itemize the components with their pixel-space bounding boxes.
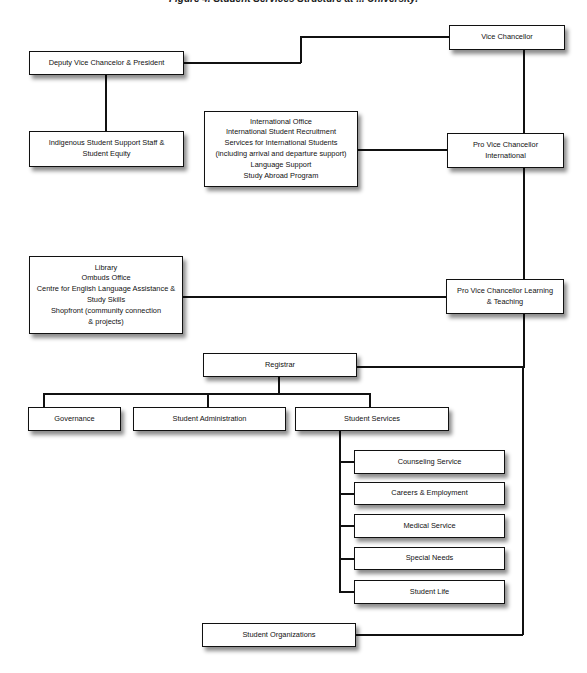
node-governance: Governance (28, 407, 121, 431)
node-registrar: Registrar (203, 353, 357, 377)
node-international-services: International Office International Stude… (204, 111, 358, 187)
node-deputy-vice-chancellor: Deputy Vice Chancelor & President (29, 51, 184, 75)
connector-ss-unit (339, 558, 354, 560)
node-student-administration: Student Administration (133, 407, 286, 431)
node-label: Indigenous Student Support Staff & (49, 138, 165, 149)
connector-student-orgs (355, 634, 523, 636)
connector-ss-unit (339, 493, 354, 495)
node-label: Student Organizations (242, 630, 315, 641)
node-medical-service: Medical Service (354, 514, 505, 538)
node-label: International (473, 151, 538, 162)
connector-spine-lower (522, 366, 524, 635)
connector-international (357, 149, 447, 151)
node-label: Shopfront (community connection (37, 306, 175, 317)
connector-ss-unit (339, 525, 354, 527)
connector-registrar-down (278, 376, 280, 394)
connector-dvc-up (300, 36, 302, 63)
node-counseling-service: Counseling Service (354, 450, 505, 474)
node-label: Counseling Service (398, 457, 462, 468)
connector-ss-spine (339, 431, 341, 592)
connector-to-vc (300, 36, 449, 38)
node-student-services: Student Services (295, 407, 449, 431)
node-learning-services: Library Ombuds Office Centre for English… (29, 256, 183, 334)
node-label: (including arrival and departure support… (215, 149, 346, 160)
node-student-organizations: Student Organizations (202, 623, 356, 647)
node-pvc-learning-teaching: Pro Vice Chancellor Learning & Teaching (446, 279, 564, 314)
connector-governance (43, 393, 45, 407)
connector-dvc-indigenous (105, 74, 107, 131)
node-label: Registrar (265, 360, 295, 371)
connector-vc-spine (523, 49, 525, 368)
node-label: Student Equity (49, 149, 165, 160)
node-indigenous-support: Indigenous Student Support Staff & Stude… (29, 131, 184, 167)
node-label: Language Support (215, 160, 346, 171)
connector-ss-unit (339, 591, 354, 593)
node-label: International Student Recruitment (215, 127, 346, 138)
node-label: Careers & Employment (391, 488, 467, 499)
node-pvc-international: Pro Vice Chancellor International (447, 133, 564, 168)
node-label: Ombuds Office (37, 273, 175, 284)
connector-ss-unit (339, 461, 354, 463)
node-label: Library (37, 263, 175, 274)
node-special-needs: Special Needs (354, 547, 505, 570)
node-vice-chancellor: Vice Chancellor (449, 25, 565, 50)
node-label: Special Needs (406, 553, 454, 564)
node-label: Study Skills (37, 295, 175, 306)
node-label: & Teaching (457, 297, 553, 308)
node-label: International Office (215, 117, 346, 128)
node-label: Medical Service (403, 521, 455, 532)
node-label: & projects) (37, 317, 175, 328)
connector-student-services (369, 393, 371, 407)
node-label: Student Services (344, 414, 400, 425)
node-label: Student Life (410, 587, 449, 598)
node-student-life: Student Life (354, 580, 505, 604)
connector-student-admin (207, 393, 209, 407)
connector-registrar (356, 366, 524, 368)
node-label: Pro Vice Chancellor (473, 140, 538, 151)
node-label: Deputy Vice Chancelor & President (49, 58, 165, 69)
node-label: Study Abroad Program (215, 171, 346, 182)
node-label: Centre for English Language Assistance & (37, 284, 175, 295)
node-label: Services for International Students (215, 138, 346, 149)
connector-dvc-right (183, 62, 301, 64)
node-careers-employment: Careers & Employment (354, 482, 505, 505)
connector-learning (182, 296, 446, 298)
node-label: Student Administration (173, 414, 247, 425)
node-label: Vice Chancellor (481, 32, 533, 43)
node-label: Pro Vice Chancellor Learning (457, 286, 553, 297)
figure-caption: Figure 4. Student Services Structure at … (0, 0, 587, 4)
node-label: Governance (54, 414, 94, 425)
